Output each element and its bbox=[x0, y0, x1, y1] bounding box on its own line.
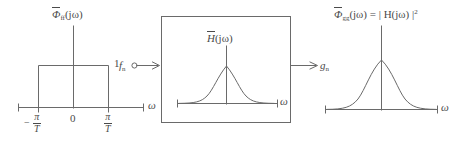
middle-title-argument: (jω) bbox=[215, 32, 233, 44]
middle-title-h: H bbox=[207, 31, 215, 44]
pos-tick-denominator: T bbox=[103, 124, 113, 135]
input-signal-label: fn bbox=[119, 60, 126, 73]
left-panel-title: Φff(jω) bbox=[52, 7, 83, 22]
output-signal-label: gn bbox=[320, 60, 329, 73]
input-subscript: n bbox=[122, 65, 126, 73]
output-subscript: n bbox=[326, 65, 330, 73]
left-tick-label-neg-pi-over-t: π T bbox=[32, 112, 42, 134]
left-tick-label-zero: 0 bbox=[70, 113, 76, 124]
right-panel-title: Φgg(jω) = | H(jω) |2 bbox=[334, 7, 418, 22]
neg-tick-denominator: T bbox=[32, 124, 42, 135]
right-title-expression: (jω) = | H(jω) | bbox=[349, 8, 414, 20]
neg-tick-numerator: π bbox=[32, 112, 42, 123]
block-diagram-figure: ===== --> gn ===== --> bbox=[0, 0, 461, 143]
pos-tick-numerator: π bbox=[103, 112, 113, 123]
input-node-circle bbox=[132, 63, 137, 68]
left-tick-minus-sign: − bbox=[24, 117, 30, 128]
left-x-axis-label: ω bbox=[148, 100, 156, 111]
left-tick-label-pos-pi-over-t: π T bbox=[103, 112, 113, 134]
right-title-exponent: 2 bbox=[414, 8, 418, 16]
right-x-axis-label: ω bbox=[441, 102, 449, 113]
middle-x-axis-label: ω bbox=[280, 96, 288, 107]
left-title-argument: (jω) bbox=[65, 8, 83, 20]
middle-panel-title: H(jω) bbox=[207, 31, 233, 44]
